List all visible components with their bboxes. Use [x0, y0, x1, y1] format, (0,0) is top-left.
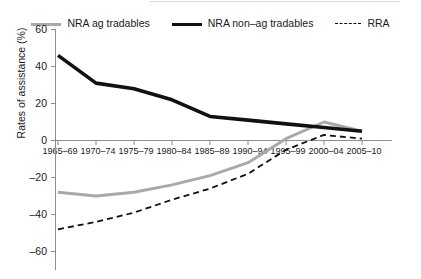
y-tick-label: 0 [41, 134, 47, 146]
x-tick-label: 2000–04 [308, 146, 343, 156]
x-tick-label: 1995–99 [270, 146, 305, 156]
y-tick-label: 40 [35, 60, 47, 72]
x-tick-label: 2005–10 [346, 146, 381, 156]
y-tick-label: –40 [29, 208, 47, 220]
y-tick-label: –20 [29, 171, 47, 183]
y-tick-label: 20 [35, 97, 47, 109]
x-tick-label: 1965–69 [42, 146, 77, 156]
series-line-nra-non-ag-tradables [58, 55, 362, 131]
x-tick-label: 1970–74 [80, 146, 115, 156]
x-tick-label: 1985–89 [194, 146, 229, 156]
y-tick-label: 60 [35, 23, 47, 35]
series-line-nra-ag-tradables [58, 122, 362, 196]
plot-area: Rates of assistance (%) 6040200–20–40–60… [0, 0, 421, 279]
y-tick-label: –60 [29, 245, 47, 257]
x-tick-label: 1975–79 [118, 146, 153, 156]
x-axis-ticks: 1965–691970–741975–791980–841985–891990–… [42, 141, 381, 157]
y-axis-ticks: 6040200–20–40–60 [29, 23, 55, 257]
chart-svg: 6040200–20–40–60 1965–691970–741975–7919… [0, 0, 421, 279]
chart-container: NRA ag tradables NRA non–ag tradables RR… [0, 0, 421, 279]
x-tick-label: 1980–84 [156, 146, 191, 156]
